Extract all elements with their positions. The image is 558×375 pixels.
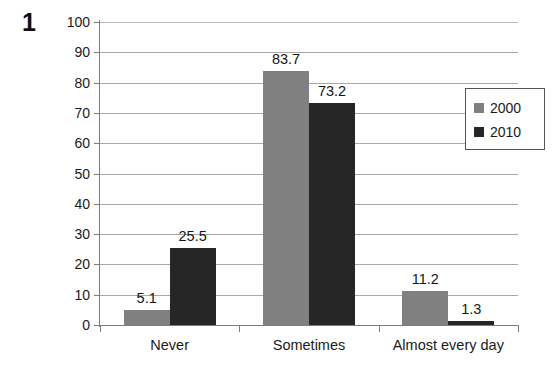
gridline [100,22,518,23]
y-axis-tick-label: 80 [48,76,90,90]
bar-value-label: 25.5 [156,229,230,244]
x-axis-tick [239,325,240,332]
legend-swatch-icon [474,127,484,137]
x-axis-tick [379,325,380,332]
y-axis-tick-label: 60 [48,136,90,150]
bar-value-label: 73.2 [295,84,369,99]
legend-swatch-icon [474,103,484,113]
bar-value-label: 83.7 [249,52,323,67]
x-axis-category-label: Never [100,338,239,353]
y-axis-line [99,20,100,327]
y-axis-tick-label: 0 [48,318,90,332]
y-axis-tick-label: 10 [48,288,90,302]
x-axis-tick [518,325,519,332]
bar-2010-sometimes[interactable] [309,103,355,325]
bar-2010-almost-every-day[interactable] [448,321,494,325]
y-axis-tick-label: 50 [48,167,90,181]
legend-item-2010[interactable]: 2010 [474,120,544,144]
y-axis-labels: 0102030405060708090100 [44,0,90,375]
legend-label: 2000 [490,101,521,115]
legend-label: 2010 [490,125,521,139]
legend-item-2000[interactable]: 2000 [474,96,544,120]
x-axis-category-label: Almost every day [379,338,518,353]
y-axis-tick-label: 70 [48,106,90,120]
y-axis-tick-label: 20 [48,257,90,271]
legend: 2000 2010 [465,88,545,150]
bar-2000-never[interactable] [124,310,170,325]
bar-2000-sometimes[interactable] [263,71,309,325]
y-axis-tick-label: 40 [48,197,90,211]
y-axis-tick-label: 90 [48,45,90,59]
bar-2010-never[interactable] [170,248,216,325]
bar-value-label: 1.3 [434,302,508,317]
y-axis-tick-label: 100 [48,15,90,29]
bar-value-label: 11.2 [388,272,462,287]
x-axis-category-label: Sometimes [239,338,378,353]
x-axis-tick [100,325,101,332]
bar-chart: 0102030405060708090100 5.125.583.773.211… [0,0,558,375]
x-axis-line [99,325,519,326]
y-axis-tick-label: 30 [48,227,90,241]
